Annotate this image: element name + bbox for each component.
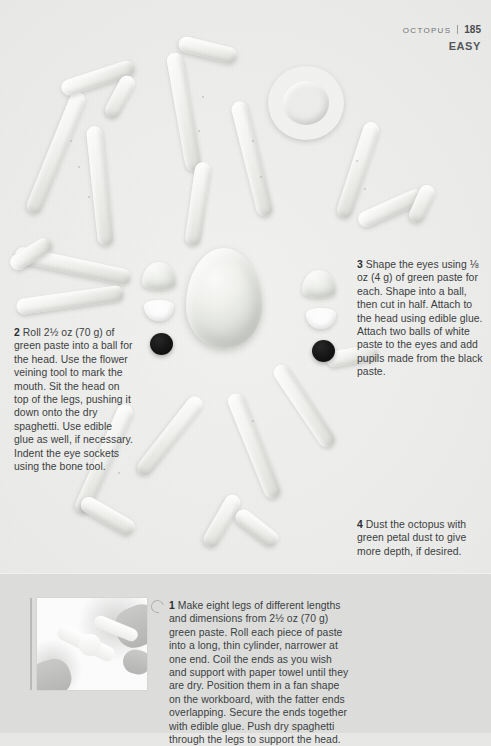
step-2-block: 2 Roll 2½ oz (70 g) of green paste into … — [14, 326, 134, 473]
octopus-head — [186, 248, 262, 348]
octopus-leg — [24, 90, 88, 217]
octopus-leg — [15, 285, 124, 316]
step-2-text: Roll 2½ oz (70 g) of green paste into a … — [14, 327, 133, 472]
leg-speckle — [202, 96, 204, 98]
octopus-leg — [166, 52, 203, 173]
leg-speckle — [70, 140, 72, 142]
octopus-leg — [134, 393, 206, 478]
step-1-number: 1 — [169, 600, 175, 611]
leg-speckle — [356, 160, 358, 162]
octopus-leg — [230, 100, 274, 218]
step-4-block: 4 Dust the octopus with green petal dust… — [357, 518, 475, 558]
step-1-photo — [37, 598, 147, 690]
octopus-leg — [271, 362, 338, 451]
green-eye-dome-left — [142, 262, 176, 290]
leg-speckle — [88, 196, 90, 198]
panel-top-edge — [0, 573, 491, 574]
octopus-leg — [86, 125, 114, 246]
chapter-title: OCTOPUS — [403, 26, 452, 35]
black-pupil-left — [150, 333, 173, 355]
leg-speckle — [252, 420, 254, 422]
step-3-number: 3 — [357, 259, 363, 270]
photo-hand-lower-left — [37, 655, 76, 690]
photo-finger — [121, 647, 147, 676]
page-header: OCTOPUS 185 — [403, 24, 481, 35]
leg-speckle — [252, 140, 254, 142]
step-4-number: 4 — [357, 519, 363, 530]
photo-left-stripe — [30, 598, 32, 690]
octopus-leg-curl — [177, 35, 239, 65]
octopus-leg-hook — [232, 506, 281, 549]
green-eye-dome-right — [302, 270, 336, 298]
page-number: 185 — [464, 24, 481, 35]
leg-speckle — [260, 176, 262, 178]
white-eye-ball-left — [144, 300, 174, 321]
octopus-leg-curl — [78, 494, 138, 538]
difficulty-badge: EASY — [449, 40, 481, 52]
octopus-leg — [335, 120, 381, 220]
step-1-block: 1 Make eight legs of different lengths a… — [169, 599, 349, 746]
octopus-leg-coil-shade — [268, 66, 344, 140]
step-4-text: Dust the octopus with green petal dust t… — [357, 519, 466, 557]
leg-speckle — [198, 130, 200, 132]
leg-speckle — [364, 188, 366, 190]
black-pupil-right — [312, 340, 335, 362]
header-divider — [457, 25, 458, 34]
leg-speckle — [78, 166, 80, 168]
octopus-leg — [184, 161, 212, 246]
step-3-text: Shape the eyes using ⅛ oz (4 g) of green… — [357, 259, 483, 377]
step-1-text: Make eight legs of different lengths and… — [169, 600, 348, 745]
white-eye-ball-right — [306, 308, 336, 329]
step-2-number: 2 — [14, 327, 20, 338]
photo-paste-coil — [79, 634, 101, 656]
step-3-block: 3 Shape the eyes using ⅛ oz (4 g) of gre… — [357, 258, 485, 379]
octopus-leg — [226, 391, 283, 501]
